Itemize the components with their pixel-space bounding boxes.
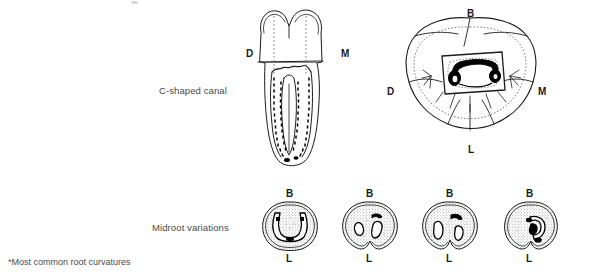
variation-1-illustration (259, 200, 321, 252)
variation-4-label-lingual: L (526, 253, 532, 264)
row-label-midroot-variations: Midroot variations (152, 222, 229, 233)
row-label-c-shaped-canal: C-shaped canal (159, 85, 227, 96)
variation-3-label-buccal: B (446, 188, 453, 199)
variation-3-label-lingual: L (446, 253, 452, 264)
variation-2-illustration (339, 200, 401, 252)
variation-2-label-buccal: B (366, 188, 373, 199)
occlusal-label-mesial: M (538, 86, 546, 97)
variation-1-label-lingual: L (286, 253, 292, 264)
longitudinal-section-illustration (243, 6, 353, 168)
top-artifact-speck (131, 1, 138, 4)
occlusal-label-distal: D (387, 86, 394, 97)
longitudinal-label-distal: D (246, 48, 253, 59)
occlusal-section-illustration (398, 12, 546, 152)
occlusal-label-lingual: L (468, 144, 474, 155)
variation-3-illustration (419, 200, 481, 252)
variation-4-illustration (500, 200, 562, 252)
footnote-most-common-root-curvatures: *Most common root curvatures (8, 257, 131, 267)
longitudinal-label-mesial: M (341, 48, 349, 59)
variation-1-label-buccal: B (286, 188, 293, 199)
occlusal-label-buccal: B (467, 8, 474, 19)
dental-figure: C-shaped canal (0, 0, 596, 276)
variation-4-label-buccal: B (526, 188, 533, 199)
variation-2-label-lingual: L (366, 253, 372, 264)
